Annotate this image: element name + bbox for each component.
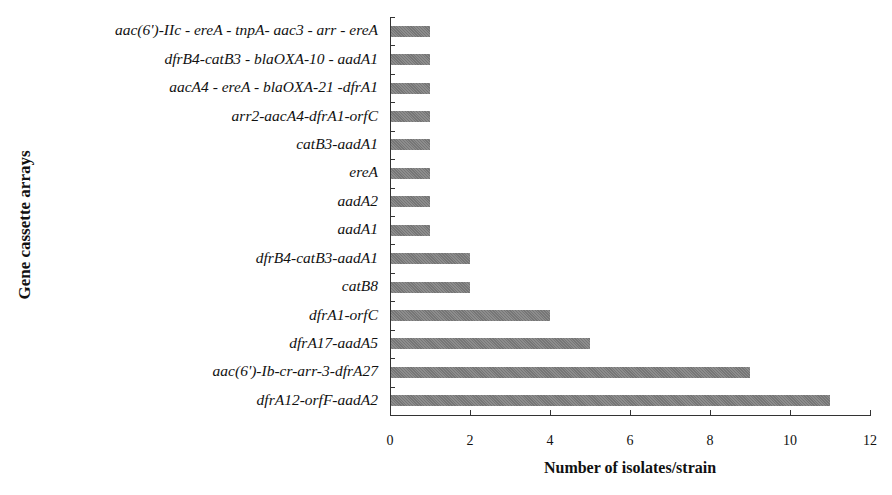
category-labels: aac(6')-IIc - ereA - tnpA- aac3 - arr - … [0, 0, 378, 495]
x-tick-label: 6 [627, 433, 634, 449]
x-axis-title: Number of isolates/strain [544, 459, 716, 477]
x-tick-mark [710, 410, 711, 415]
bar [391, 253, 470, 264]
y-tick-mark [390, 273, 395, 274]
y-tick-mark [390, 74, 395, 75]
x-tick-mark [630, 410, 631, 415]
bar [391, 282, 470, 293]
x-tick-mark [790, 410, 791, 415]
bar [391, 338, 590, 349]
category-label: dfrB4-catB3 - blaOXA-10 - aadA1 [164, 50, 378, 68]
bar [391, 225, 430, 236]
category-label: aacA4 - ereA - blaOXA-21 -dfrA1 [169, 78, 378, 96]
bar [391, 168, 430, 179]
category-label: catB3-aadA1 [296, 135, 378, 153]
category-label: catB8 [342, 277, 378, 295]
category-label: arr2-aacA4-dfrA1-orfC [232, 107, 378, 125]
category-label: aadA1 [338, 220, 378, 238]
x-tick-label: 4 [547, 433, 554, 449]
y-tick-mark [390, 358, 395, 359]
x-tick-label: 0 [387, 433, 394, 449]
y-tick-mark [390, 17, 395, 18]
bar [391, 111, 430, 122]
bar [391, 310, 550, 321]
y-tick-mark [390, 188, 395, 189]
x-tick-mark [390, 410, 391, 415]
category-label: ereA [349, 163, 378, 181]
y-tick-mark [390, 131, 395, 132]
y-tick-mark [390, 216, 395, 217]
bar [391, 139, 430, 150]
x-tick-mark [870, 410, 871, 415]
x-tick-label: 10 [783, 433, 797, 449]
bar [391, 395, 830, 406]
x-tick-label: 8 [707, 433, 714, 449]
y-tick-mark [390, 387, 395, 388]
x-axis-line [390, 415, 871, 416]
bar [391, 367, 750, 378]
x-tick-label: 12 [863, 433, 877, 449]
bar [391, 54, 430, 65]
category-label: aac(6')-Ib-cr-arr-3-dfrA27 [213, 362, 378, 380]
category-label: aadA2 [338, 192, 378, 210]
y-tick-mark [390, 244, 395, 245]
bar [391, 26, 430, 37]
y-tick-mark [390, 159, 395, 160]
category-label: dfrB4-catB3-aadA1 [256, 249, 378, 267]
y-axis-title: Gene cassette arrays [15, 150, 35, 299]
category-label: dfrA12-orfF-aadA2 [257, 391, 378, 409]
x-tick-label: 2 [467, 433, 474, 449]
x-tick-mark [550, 410, 551, 415]
bar [391, 196, 430, 207]
category-label: aac(6')-IIc - ereA - tnpA- aac3 - arr - … [115, 21, 378, 39]
y-tick-mark [390, 301, 395, 302]
category-label: dfrA1-orfC [309, 306, 378, 324]
y-tick-mark [390, 45, 395, 46]
bar-chart: aac(6')-IIc - ereA - tnpA- aac3 - arr - … [0, 0, 892, 495]
bar [391, 83, 430, 94]
y-tick-mark [390, 102, 395, 103]
x-tick-mark [470, 410, 471, 415]
category-label: dfrA17-aadA5 [289, 334, 378, 352]
y-tick-mark [390, 330, 395, 331]
